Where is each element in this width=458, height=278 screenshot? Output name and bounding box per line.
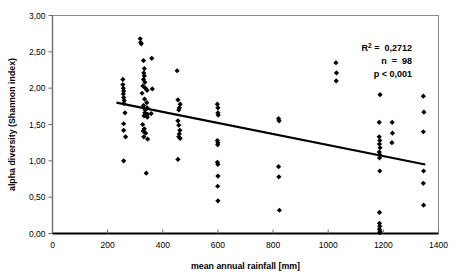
y-tick-label: 2,00: [29, 83, 46, 93]
y-tick-label: 1,00: [29, 156, 46, 166]
y-tick-label: 0,00: [29, 229, 46, 239]
p-value-annotation: p < 0,001: [374, 69, 412, 79]
x-tick-label: 1200: [374, 240, 393, 250]
y-tick-label: 3,00: [29, 11, 46, 21]
x-tick-label: 400: [156, 240, 170, 250]
y-tick-label: 2,50: [29, 47, 46, 57]
x-tick-label: 1000: [319, 240, 338, 250]
x-tick-label: 800: [266, 240, 280, 250]
x-axis-title: mean annual rainfall [mm]: [191, 261, 300, 271]
x-tick-label: 1400: [429, 240, 448, 250]
y-axis-title: alpha diversity (Shannon index): [7, 58, 17, 191]
chart-figure: 0,000,501,001,502,002,503,00 02004006008…: [0, 0, 458, 278]
scatter-plot-svg: 0,000,501,001,502,002,503,00 02004006008…: [0, 0, 458, 278]
sample-size-annotation: n = 98: [381, 56, 412, 66]
y-tick-label: 1,50: [29, 120, 46, 130]
y-tick-label: 0,50: [29, 192, 46, 202]
x-tick-label: 600: [211, 240, 225, 250]
x-tick-label: 200: [101, 240, 115, 250]
x-tick-label: 0: [50, 240, 55, 250]
r-squared-value: = 0,2712: [372, 43, 412, 53]
figure-background: [0, 0, 458, 278]
